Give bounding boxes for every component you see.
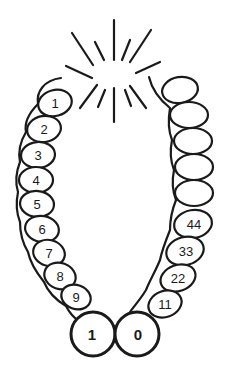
- left-loop-3: 3: [20, 141, 56, 170]
- right-loop-top-5: [175, 180, 213, 206]
- right-loop-top-4: [175, 154, 213, 180]
- left-loop-label-7: 7: [45, 246, 52, 261]
- left-loop-label-8: 8: [56, 269, 63, 284]
- bottom-label-0: 0: [134, 326, 142, 343]
- right-loop-44: 44: [172, 207, 214, 241]
- right-loop-top-1: [160, 74, 200, 106]
- left-loop-label-9: 9: [72, 290, 79, 305]
- bottom-loop-0: 0: [115, 312, 159, 356]
- left-loop-label-6: 6: [38, 222, 45, 237]
- coil-diagram: 1 2 3 4 5 6 7 8: [0, 0, 232, 376]
- left-loop-5: 5: [19, 190, 55, 219]
- right-loop-label-11: 11: [158, 297, 172, 312]
- right-coil: 44 33 22 11: [145, 74, 215, 322]
- bottom-loop-1: 1: [71, 312, 115, 356]
- right-loop-top-3: [174, 128, 212, 154]
- left-loop-2: 2: [25, 113, 63, 145]
- right-loop-label-22: 22: [171, 271, 185, 286]
- left-loop-label-2: 2: [40, 122, 47, 137]
- left-loop-label-3: 3: [34, 148, 41, 163]
- burst-icon: [66, 20, 160, 122]
- left-loop-label-4: 4: [32, 173, 39, 188]
- right-loop-top-2: [170, 102, 208, 128]
- left-loop-label-1: 1: [51, 96, 58, 111]
- left-loop-1: 1: [35, 86, 75, 120]
- right-loop-label-44: 44: [187, 217, 201, 232]
- left-coil: 1 2 3 4 5 6 7 8: [19, 86, 94, 313]
- right-loop-label-33: 33: [179, 244, 193, 259]
- bottom-label-1: 1: [88, 326, 96, 343]
- left-loop-4: 4: [19, 167, 53, 193]
- bottom-pair: 1 0: [71, 312, 159, 356]
- left-loop-label-5: 5: [33, 197, 40, 212]
